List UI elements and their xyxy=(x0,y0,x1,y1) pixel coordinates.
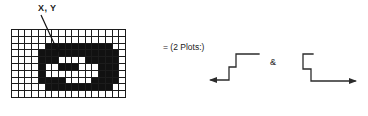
grid-cell xyxy=(119,44,125,50)
grid-cell xyxy=(19,30,25,36)
grid-cell xyxy=(106,78,112,84)
grid-cell xyxy=(99,78,105,84)
grid-cell xyxy=(106,57,112,63)
grid-cell xyxy=(86,78,92,84)
grid-cell xyxy=(106,44,112,50)
grid-cell xyxy=(19,44,25,50)
grid-cell xyxy=(12,91,18,97)
grid-cell xyxy=(86,64,92,70)
grid-cell xyxy=(119,37,125,43)
grid-cell xyxy=(79,91,85,97)
grid-cell xyxy=(92,30,98,36)
grid-cell xyxy=(25,84,31,90)
grid-cell xyxy=(19,50,25,56)
grid-cell xyxy=(79,71,85,77)
grid-cell xyxy=(12,30,18,36)
grid-cell xyxy=(19,78,25,84)
grid-cell xyxy=(25,91,31,97)
grid-cell xyxy=(72,91,78,97)
grid-cell xyxy=(113,50,119,56)
grid-cell xyxy=(113,64,119,70)
grid-cell xyxy=(52,84,58,90)
grid-cell xyxy=(19,37,25,43)
grid-cell xyxy=(99,57,105,63)
grid-cell xyxy=(66,84,72,90)
grid-cell xyxy=(59,64,65,70)
grid-cell xyxy=(19,57,25,63)
grid-cell xyxy=(113,78,119,84)
grid-cell xyxy=(92,37,98,43)
xy-annotation-label: X, Y xyxy=(38,3,56,14)
grid-cell xyxy=(99,50,105,56)
grid-cell xyxy=(106,50,112,56)
grid-cell xyxy=(12,64,18,70)
grid-cell xyxy=(19,64,25,70)
grid-cell xyxy=(119,30,125,36)
grid-cell xyxy=(92,44,98,50)
grid-cell xyxy=(32,91,38,97)
grid-cell xyxy=(32,71,38,77)
grid-cell xyxy=(99,84,105,90)
grid-cell xyxy=(66,91,72,97)
conjunction-ampersand-label: & xyxy=(270,57,276,68)
grid-cell xyxy=(12,84,18,90)
step-down-left-arrow-icon xyxy=(203,52,269,86)
grid-cell xyxy=(92,57,98,63)
grid-cell xyxy=(113,91,119,97)
grid-cell xyxy=(99,44,105,50)
grid-cell xyxy=(46,71,52,77)
grid-cell xyxy=(99,64,105,70)
grid-cell xyxy=(79,78,85,84)
grid-cell xyxy=(119,71,125,77)
grid-cell xyxy=(72,84,78,90)
grid-cell xyxy=(86,91,92,97)
grid-cell xyxy=(25,71,31,77)
grid-cell xyxy=(46,91,52,97)
grid-cell xyxy=(19,71,25,77)
grid-cell xyxy=(106,64,112,70)
grid-cell xyxy=(119,84,125,90)
grid-cell xyxy=(12,78,18,84)
grid-cell xyxy=(99,37,105,43)
figure-canvas: X, Y = (2 Plots:) & xyxy=(0,0,368,116)
grid-cell xyxy=(119,78,125,84)
grid-cell xyxy=(119,91,125,97)
annotation-leader-line xyxy=(28,12,88,62)
grid-cell xyxy=(113,44,119,50)
grid-cell xyxy=(59,84,65,90)
grid-cell xyxy=(72,64,78,70)
grid-cell xyxy=(39,84,45,90)
grid-cell xyxy=(52,64,58,70)
grid-cell xyxy=(119,57,125,63)
grid-cell xyxy=(92,78,98,84)
grid-cell xyxy=(99,91,105,97)
grid-cell xyxy=(106,37,112,43)
grid-cell xyxy=(12,50,18,56)
grid-cell xyxy=(25,78,31,84)
grid-cell xyxy=(12,44,18,50)
grid-cell xyxy=(32,64,38,70)
grid-cell xyxy=(39,71,45,77)
grid-cell xyxy=(119,50,125,56)
grid-cell xyxy=(92,91,98,97)
grid-cell xyxy=(25,64,31,70)
grid-cell xyxy=(79,64,85,70)
grid-cell xyxy=(52,71,58,77)
grid-cell xyxy=(12,57,18,63)
grid-cell xyxy=(66,64,72,70)
grid-cell xyxy=(19,91,25,97)
grid-cell xyxy=(66,78,72,84)
grid-cell xyxy=(92,64,98,70)
grid-cell xyxy=(46,64,52,70)
grid-cell xyxy=(113,57,119,63)
grid-cell xyxy=(52,91,58,97)
grid-cell xyxy=(12,37,18,43)
grid-cell xyxy=(113,84,119,90)
grid-cell xyxy=(39,91,45,97)
grid-cell xyxy=(72,78,78,84)
grid-cell xyxy=(59,71,65,77)
grid-cell xyxy=(113,37,119,43)
grid-cell xyxy=(99,30,105,36)
grid-cell xyxy=(92,71,98,77)
step-down-right-arrow-icon xyxy=(297,52,363,86)
